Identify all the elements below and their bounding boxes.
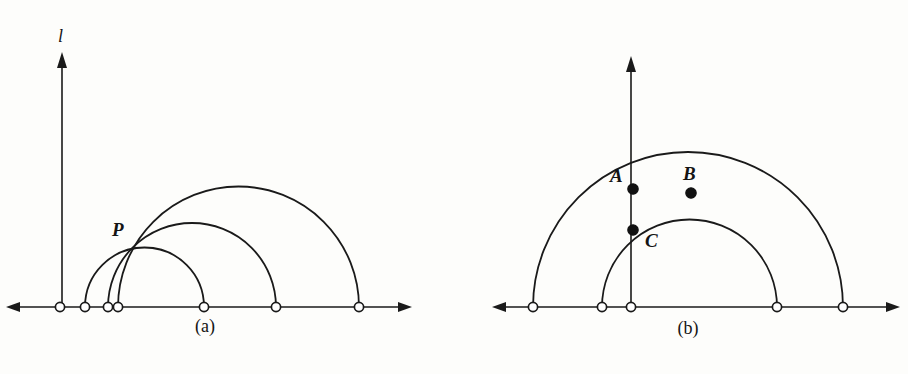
panel-a-left-arrow-icon [6, 302, 20, 312]
point-C-label: C [645, 230, 658, 251]
node-a6 [271, 302, 280, 311]
node-a3 [103, 302, 112, 311]
panel-b: A B C (b) [492, 56, 900, 339]
node-b1 [528, 302, 537, 311]
panel-a-axis-l-arrow-icon [57, 52, 67, 68]
point-A-label: A [609, 165, 623, 186]
point-A-dot [628, 184, 638, 194]
geometry-figure-svg: l P (a) [0, 0, 908, 374]
panel-a-vertical-axis [57, 52, 67, 307]
node-a7 [354, 302, 363, 311]
panel-b-vertical-axis [626, 56, 636, 307]
panel-b-axis-arrow-icon [626, 56, 636, 72]
point-B-label: B [682, 163, 696, 184]
panel-b-right-arrow-icon [886, 302, 900, 312]
arc-a-medium [108, 223, 276, 307]
panel-b-left-arrow-icon [492, 302, 506, 312]
panel-a-axis-l-label: l [58, 26, 63, 46]
node-b3 [626, 302, 635, 311]
node-a2 [80, 302, 89, 311]
point-P-label: P [111, 219, 124, 240]
panel-a: l P (a) [6, 26, 412, 337]
arc-a-small [85, 248, 204, 307]
panel-a-caption: (a) [195, 316, 215, 337]
point-B-dot [686, 188, 696, 198]
point-C-dot [628, 225, 638, 235]
panel-a-right-arrow-icon [398, 302, 412, 312]
figure-root: l P (a) [0, 0, 908, 374]
node-b5 [838, 302, 847, 311]
panel-b-caption: (b) [678, 318, 699, 339]
arc-a-large [118, 187, 359, 307]
node-a1 [55, 302, 64, 311]
node-b4 [772, 302, 781, 311]
node-b2 [597, 302, 606, 311]
node-a5 [199, 302, 208, 311]
node-a4 [113, 302, 122, 311]
